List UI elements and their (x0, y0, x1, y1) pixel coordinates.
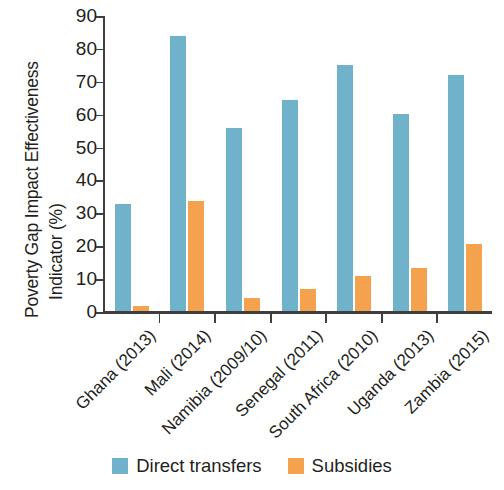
y-axis-tick-label: 90 (76, 6, 97, 25)
y-axis-tick-label: 60 (76, 105, 97, 124)
legend-label: Subsidies (312, 455, 392, 477)
legend-swatch-icon (288, 458, 304, 474)
x-axis-category-labels: Ghana (2013)Mali (2014)Namibia (2009/10)… (0, 322, 504, 442)
y-axis-tick (96, 180, 104, 182)
y-axis-tick (96, 279, 104, 281)
y-axis-tick-label: 40 (76, 170, 97, 189)
bar-subsidies (411, 268, 427, 311)
bar-subsidies (300, 289, 316, 311)
legend-label: Direct transfers (136, 455, 261, 477)
bar-direct-transfers (282, 100, 298, 311)
bar-direct-transfers (115, 204, 131, 311)
y-axis-tick-label: 80 (76, 39, 97, 58)
y-axis-tick (96, 82, 104, 84)
y-axis-tick-label: 50 (76, 138, 97, 157)
legend-swatch-icon (112, 458, 128, 474)
bar-direct-transfers (226, 128, 242, 311)
y-axis-tick-labels: 0102030405060708090 (55, 16, 97, 312)
y-axis-title-line-1: Poverty Gap Impact Effectiveness (22, 61, 43, 318)
bar-direct-transfers (448, 75, 464, 311)
y-axis-tick-label: 10 (76, 269, 97, 288)
y-axis-tick (96, 49, 104, 51)
bars-layer (103, 16, 492, 312)
bar-subsidies (355, 276, 371, 311)
legend-item[interactable]: Direct transfers (112, 455, 261, 477)
bar-subsidies (133, 306, 149, 311)
y-axis-tick (96, 16, 104, 18)
y-axis-tick (96, 213, 104, 215)
legend-item[interactable]: Subsidies (288, 455, 392, 477)
bar-subsidies (244, 298, 260, 311)
y-axis-title: Poverty Gap Impact Effectiveness Indicat… (0, 0, 62, 330)
y-axis-tick (96, 312, 104, 314)
bar-subsidies (466, 244, 482, 311)
bar-direct-transfers (393, 114, 409, 311)
y-axis-tick (96, 148, 104, 150)
y-axis-tick-label: 20 (76, 236, 97, 255)
y-axis-tick (96, 246, 104, 248)
plot-area (103, 16, 491, 312)
y-axis-tick-label: 30 (76, 203, 97, 222)
bar-chart-figure: Poverty Gap Impact Effectiveness Indicat… (0, 0, 504, 490)
chart-legend: Direct transfersSubsidies (0, 455, 504, 477)
bar-direct-transfers (337, 65, 353, 311)
y-axis-tick (96, 115, 104, 117)
y-axis-tick-label: 70 (76, 72, 97, 91)
x-axis-label: Ghana (2013) (72, 326, 160, 414)
bar-direct-transfers (170, 36, 186, 311)
x-axis-label: Namibia (2009/10) (158, 326, 271, 439)
bar-subsidies (188, 201, 204, 311)
